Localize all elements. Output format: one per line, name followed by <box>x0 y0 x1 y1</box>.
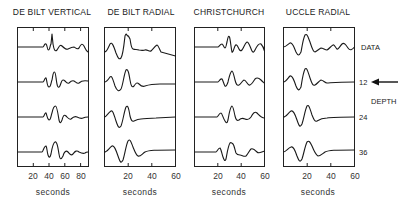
tick-label: 60 <box>60 171 69 181</box>
tick-label: 40 <box>326 171 335 181</box>
trace-p4-24 <box>284 106 355 127</box>
tick-label: 60 <box>171 171 180 181</box>
row-label-data: DATA <box>361 43 380 52</box>
ticks-panel-3 <box>218 28 241 167</box>
panel-frame-2 <box>105 28 176 167</box>
x-axis-label-2: seconds <box>123 187 157 197</box>
x-axis-label-4: seconds <box>301 187 335 197</box>
tick-label: 20 <box>28 171 37 181</box>
x-axis-label-3: seconds <box>212 187 246 197</box>
tick-label: 60 <box>350 171 359 181</box>
panel-frame-3 <box>195 28 265 167</box>
row-label-24: 24 <box>359 113 367 122</box>
tick-label: 40 <box>236 171 245 181</box>
tick-label: 40 <box>147 171 156 181</box>
trace-p2-24 <box>105 106 176 127</box>
row-label-36: 36 <box>359 148 367 157</box>
tick-label: 20 <box>123 171 132 181</box>
tick-label: 80 <box>76 171 85 181</box>
trace-p3-12 <box>195 71 265 86</box>
tick-label: 20 <box>302 171 311 181</box>
tick-label: 60 <box>260 171 269 181</box>
trace-p4-data <box>284 34 355 55</box>
arrow-left-icon <box>371 79 398 86</box>
row-label-12: 12 <box>359 78 367 87</box>
tick-label: 20 <box>213 171 222 181</box>
trace-p3-36 <box>195 143 265 161</box>
tick-label: 40 <box>44 171 53 181</box>
trace-p4-36 <box>284 141 355 161</box>
trace-p4-12 <box>284 69 355 90</box>
trace-p2-12 <box>105 70 176 91</box>
x-axis-label-1: seconds <box>36 187 70 197</box>
trace-p1-data <box>18 34 89 52</box>
trace-p3-data <box>195 36 265 52</box>
trace-p2-36 <box>105 140 176 162</box>
trace-p1-12 <box>18 72 89 87</box>
trace-p1-36 <box>18 142 89 159</box>
trace-p3-24 <box>195 106 265 123</box>
ticks-panel-4 <box>307 28 331 167</box>
trace-p1-24 <box>18 106 89 123</box>
row-label-depth: DEPTH <box>371 97 396 106</box>
seismogram-figure: DE BILT VERTICAL DE BILT RADIAL CHRISTCH… <box>0 0 411 205</box>
trace-p2-data <box>105 34 176 59</box>
